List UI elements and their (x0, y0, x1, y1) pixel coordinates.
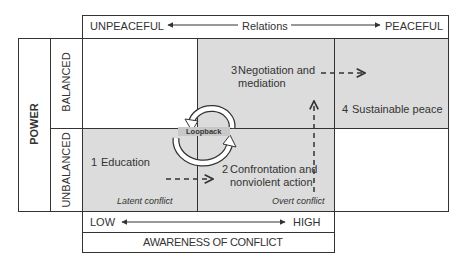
awareness-title: AWARENESS OF CONFLICT (143, 236, 283, 248)
loopback-label: Loopback (186, 127, 221, 136)
low-label: LOW (90, 216, 115, 228)
high-label: HIGH (293, 216, 321, 228)
